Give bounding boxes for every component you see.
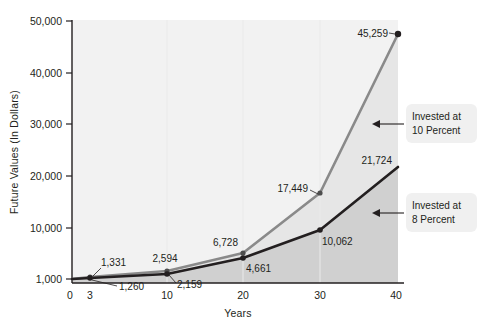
- callout-box-10pct: [406, 104, 477, 143]
- future-value-line-chart: 50,000 40,000 30,000 20,000 10,000 1,000…: [0, 0, 479, 325]
- y-tick-label-40000: 40,000: [30, 67, 62, 79]
- y-axis-title: Future Values (In Dollars): [8, 90, 20, 214]
- y-tick-label-20000: 20,000: [30, 170, 62, 182]
- x-tick-label-10: 10: [161, 289, 173, 301]
- x-tick-label-3: 3: [87, 289, 93, 301]
- data-point-8pct-year30: [317, 227, 323, 233]
- point-label-8pct-year30: 10,062: [322, 236, 353, 247]
- data-point-8pct-year3: [87, 275, 93, 281]
- point-label-10pct-year30: 17,449: [277, 183, 308, 194]
- point-label-10pct-year3: 1,331: [101, 257, 126, 268]
- data-point-8pct-year20: [240, 255, 246, 261]
- point-label-8pct-year10: 2,159: [177, 279, 202, 290]
- y-tick-label-30000: 30,000: [30, 118, 62, 130]
- chart-canvas: 50,000 40,000 30,000 20,000 10,000 1,000…: [0, 0, 479, 325]
- x-tick-label-30: 30: [314, 289, 326, 301]
- point-label-8pct-year40: 21,724: [361, 155, 392, 166]
- callout-8pct-line1: Invested at: [412, 200, 461, 211]
- data-point-8pct-year10: [164, 271, 170, 277]
- data-point-10pct-year30: [317, 190, 322, 195]
- callout-10pct-line1: Invested at: [412, 111, 461, 122]
- x-axis-title: Years: [224, 307, 251, 319]
- x-tick-label-20: 20: [237, 289, 249, 301]
- data-point-10pct-year40: [395, 31, 401, 37]
- y-tick-label-50000: 50,000: [30, 15, 62, 27]
- point-label-10pct-year40: 45,259: [357, 28, 388, 39]
- point-label-10pct-year10: 2,594: [152, 253, 177, 264]
- point-label-8pct-year3: 1,260: [119, 281, 144, 292]
- callout-box-8pct: [406, 193, 477, 232]
- point-label-10pct-year20: 6,728: [213, 237, 238, 248]
- data-point-10pct-year20: [240, 250, 245, 255]
- y-tick-label-10000: 10,000: [30, 222, 62, 234]
- x-tick-label-0: 0: [67, 289, 73, 301]
- callout-10pct-line2: 10 Percent: [412, 125, 461, 136]
- point-label-8pct-year20: 4,661: [246, 263, 271, 274]
- y-tick-label-1000: 1,000: [36, 273, 62, 285]
- x-tick-label-40: 40: [390, 289, 402, 301]
- callout-8pct-line2: 8 Percent: [412, 214, 455, 225]
